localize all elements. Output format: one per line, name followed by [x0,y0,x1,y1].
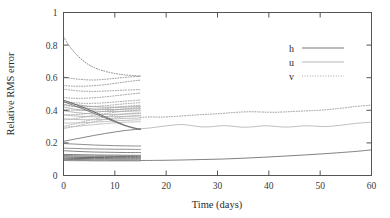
y-tick-label-1: 1 [53,8,58,18]
x-tick-label-60: 60 [367,181,377,191]
figure-container: 0102030405060 00.20.40.60.81 Time (days)… [0,0,390,218]
y-tick-label-0_2: 0.2 [46,138,58,148]
x-tick-label-40: 40 [264,181,274,191]
x-tick-label-50: 50 [315,181,325,191]
x-tick-label-0: 0 [61,181,66,191]
legend-label-u: u [289,57,294,68]
legend-label-h: h [289,43,294,54]
y-tick-label-0_4: 0.4 [46,106,58,116]
x-tick-label-10: 10 [110,181,120,191]
y-tick-label-0_8: 0.8 [46,41,58,51]
x-tick-label-20: 20 [161,181,171,191]
plot-background [0,0,390,218]
y-axis-title: Relative RMS error [5,52,16,135]
x-axis-title: Time (days) [192,199,243,211]
chart-svg: 0102030405060 00.20.40.60.81 Time (days)… [0,0,390,218]
x-tick-label-30: 30 [213,181,223,191]
y-tick-label-0: 0 [53,171,58,181]
legend-label-v: v [289,71,294,82]
y-tick-label-0_6: 0.6 [46,73,58,83]
